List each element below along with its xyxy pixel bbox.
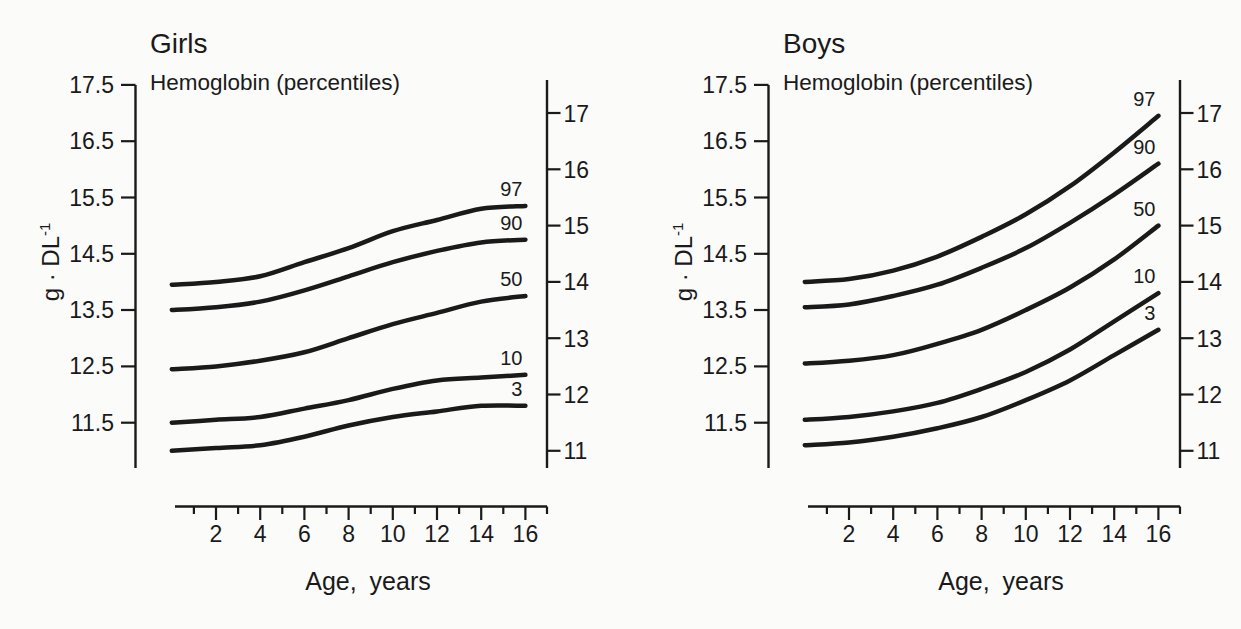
x-tick-label: 2 xyxy=(843,521,856,547)
y-right-tick-label: 12 xyxy=(564,382,590,408)
percentile-curve-50 xyxy=(805,226,1159,364)
y-left-tick-label: 17.5 xyxy=(702,72,747,98)
y-right-tick-label: 11 xyxy=(1197,438,1221,464)
y-right-tick-label: 11 xyxy=(564,438,588,464)
x-tick-label: 12 xyxy=(424,521,450,547)
y-right-tick-label: 13 xyxy=(1197,326,1223,352)
x-tick-label: 8 xyxy=(342,521,355,547)
y-right-tick-label: 14 xyxy=(1197,269,1223,295)
y-axis-label: g · DL-1 xyxy=(669,223,697,302)
curve-label-10: 10 xyxy=(1133,265,1155,287)
x-axis-label: Age, years xyxy=(938,567,1064,595)
y-right-tick-label: 16 xyxy=(1197,157,1223,183)
x-tick-label: 12 xyxy=(1057,521,1083,547)
percentile-curve-10 xyxy=(172,375,526,423)
x-tick-label: 16 xyxy=(1146,521,1172,547)
y-right-tick-label: 17 xyxy=(1197,101,1223,127)
chart-title: Girls xyxy=(150,28,208,59)
curve-label-50: 50 xyxy=(1133,198,1155,220)
chart-title: Boys xyxy=(783,28,845,59)
y-left-tick-label: 15.5 xyxy=(69,185,114,211)
y-right-tick-label: 15 xyxy=(1197,213,1223,239)
curve-label-3: 3 xyxy=(1144,302,1155,324)
curve-label-10: 10 xyxy=(500,347,522,369)
x-tick-label: 10 xyxy=(380,521,406,547)
x-tick-label: 8 xyxy=(975,521,988,547)
hemoglobin-percentile-figure: Girls Hemoglobin (percentiles) g · DL-1 … xyxy=(0,0,1241,629)
x-tick-label: 10 xyxy=(1013,521,1039,547)
y-left-tick-label: 11.5 xyxy=(704,410,747,436)
y-right-tick-label: 16 xyxy=(564,157,590,183)
chart-subtitle: Hemoglobin (percentiles) xyxy=(783,70,1033,95)
curve-label-90: 90 xyxy=(500,212,522,234)
y-left-tick-label: 15.5 xyxy=(702,185,747,211)
percentile-curve-3 xyxy=(172,405,526,450)
boys-plot-area: 17.516.515.514.513.512.511.5171615141312… xyxy=(702,72,1222,547)
curve-label-97: 97 xyxy=(500,178,522,200)
y-left-tick-label: 16.5 xyxy=(702,128,747,154)
curve-label-90: 90 xyxy=(1133,136,1155,158)
x-tick-label: 6 xyxy=(931,521,944,547)
curve-label-97: 97 xyxy=(1133,88,1155,110)
y-left-tick-label: 14.5 xyxy=(702,241,747,267)
y-left-tick-label: 17.5 xyxy=(69,72,114,98)
chart-subtitle: Hemoglobin (percentiles) xyxy=(150,70,400,95)
x-tick-label: 2 xyxy=(210,521,223,547)
x-tick-label: 16 xyxy=(513,521,539,547)
y-axis-label: g · DL-1 xyxy=(36,223,64,302)
y-left-tick-label: 14.5 xyxy=(69,241,114,267)
y-right-tick-label: 17 xyxy=(564,101,590,127)
y-left-tick-label: 11.5 xyxy=(71,410,114,436)
chart-boys: Boys Hemoglobin (percentiles) g · DL-1 A… xyxy=(633,0,1241,629)
girls-plot-area: 17.516.515.514.513.512.511.5171615141312… xyxy=(69,72,589,547)
boys-chart-svg: Boys Hemoglobin (percentiles) g · DL-1 A… xyxy=(633,0,1241,629)
chart-girls: Girls Hemoglobin (percentiles) g · DL-1 … xyxy=(0,0,617,629)
x-axis-label: Age, years xyxy=(305,567,431,595)
y-right-tick-label: 12 xyxy=(1197,382,1223,408)
y-left-tick-label: 12.5 xyxy=(69,353,114,379)
y-left-tick-label: 13.5 xyxy=(702,297,747,323)
curve-label-3: 3 xyxy=(511,378,522,400)
curve-label-50: 50 xyxy=(500,268,522,290)
y-right-tick-label: 13 xyxy=(564,326,590,352)
y-left-tick-label: 12.5 xyxy=(702,353,747,379)
x-tick-label: 14 xyxy=(468,521,494,547)
x-tick-label: 4 xyxy=(887,521,900,547)
x-tick-label: 6 xyxy=(298,521,311,547)
girls-chart-svg: Girls Hemoglobin (percentiles) g · DL-1 … xyxy=(0,0,617,629)
y-left-tick-label: 13.5 xyxy=(69,297,114,323)
y-right-tick-label: 14 xyxy=(564,269,590,295)
y-left-tick-label: 16.5 xyxy=(69,128,114,154)
x-tick-label: 4 xyxy=(254,521,267,547)
percentile-curve-10 xyxy=(805,293,1159,420)
y-right-tick-label: 15 xyxy=(564,213,590,239)
x-tick-label: 14 xyxy=(1101,521,1127,547)
